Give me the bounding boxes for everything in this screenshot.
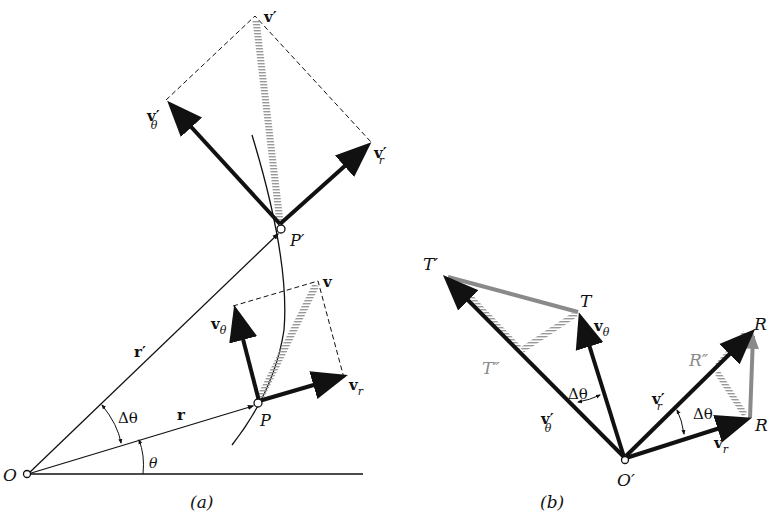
label-v-r-prime: v′r bbox=[373, 144, 387, 167]
label-v-r-b: vr bbox=[713, 434, 729, 456]
delta-theta-arc-right bbox=[677, 410, 684, 434]
label-r: r bbox=[177, 406, 186, 424]
label-R-double-prime: R″ bbox=[688, 350, 709, 370]
origin-O bbox=[24, 471, 31, 478]
label-T: T bbox=[580, 291, 593, 311]
caption-b: (b) bbox=[540, 492, 564, 512]
label-origin-O: O bbox=[3, 465, 17, 485]
label-T-prime: T′ bbox=[423, 254, 438, 274]
theta-arc bbox=[139, 440, 144, 474]
panel-a: O P P′ r r′ Δθ θ v vθ vr v′ v′θ v′r (a) bbox=[3, 8, 387, 512]
label-delta-theta-right: Δθ bbox=[693, 405, 713, 423]
v-r-prime-vector bbox=[280, 147, 366, 224]
label-v-r-prime-b: v′r bbox=[651, 390, 665, 413]
origin-O-prime bbox=[622, 457, 629, 464]
label-theta: θ bbox=[149, 455, 158, 471]
panel-b: T′ T T″ vθ v′θ Δθ R R R″ v′r Δθ vr O′ (b… bbox=[423, 254, 768, 512]
v-theta-prime-vector bbox=[172, 106, 280, 224]
label-v-theta: vθ bbox=[210, 315, 227, 337]
label-v-theta-prime-b: v′θ bbox=[540, 410, 554, 435]
label-delta-theta-left: Δθ bbox=[568, 385, 588, 403]
label-P: P bbox=[259, 411, 271, 430]
label-P-prime: P′ bbox=[289, 231, 305, 250]
point-P bbox=[254, 399, 262, 407]
label-R: R bbox=[754, 415, 768, 435]
point-P-prime bbox=[277, 225, 285, 233]
label-v-r: vr bbox=[348, 376, 364, 398]
r-vector bbox=[28, 406, 253, 474]
label-origin-O-prime: O′ bbox=[617, 470, 635, 490]
label-v: v bbox=[322, 273, 333, 291]
velocity-components-diagram: O P P′ r r′ Δθ θ v vθ vr v′ v′θ v′r (a) bbox=[0, 0, 774, 527]
r-prime-vector bbox=[28, 234, 278, 474]
label-R-top: R bbox=[753, 314, 767, 334]
v-vector-hatched bbox=[259, 285, 316, 400]
v-theta-vector bbox=[236, 312, 259, 401]
T-to-T-double-prime-hatched bbox=[522, 314, 576, 350]
caption-a: (a) bbox=[190, 492, 213, 512]
R-to-R-prime-gray bbox=[750, 336, 753, 418]
label-v-prime: v′ bbox=[263, 8, 277, 26]
R-to-R-double-prime-hatched bbox=[717, 372, 745, 415]
label-delta-theta: Δθ bbox=[118, 409, 138, 427]
label-T-double-prime: T″ bbox=[482, 358, 500, 378]
label-v-theta-b: vθ bbox=[593, 317, 610, 339]
label-v-theta-prime: v′θ bbox=[146, 107, 160, 132]
label-r-prime: r′ bbox=[134, 343, 146, 361]
